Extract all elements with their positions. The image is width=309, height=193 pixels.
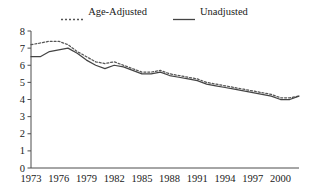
data-series-layer (31, 41, 299, 99)
y-axis-tick-label: 1 (20, 145, 25, 156)
x-axis-tick-label: 1982 (104, 173, 125, 184)
y-axis-tick-label: 0 (20, 163, 25, 174)
y-axis-tick-label: 7 (20, 43, 25, 54)
plot-area: 012345678 197319761979198219851988199119… (0, 0, 309, 193)
y-axis-tick-label: 8 (20, 26, 25, 37)
x-axis-tick-label: 1994 (215, 173, 237, 184)
line-chart: Age-Adjusted Unadjusted 012345678 197319… (0, 0, 309, 193)
x-axis-tick-label: 1988 (159, 173, 180, 184)
x-axis-tick-label: 1979 (76, 173, 97, 184)
y-axis-tick-label: 3 (20, 111, 25, 122)
y-axis: 012345678 (20, 26, 31, 174)
x-axis-tick-label: 1997 (242, 173, 263, 184)
y-axis-tick-label: 4 (20, 94, 26, 105)
y-axis-tick-label: 2 (20, 128, 25, 139)
x-axis-tick-label: 1985 (131, 173, 152, 184)
y-axis-tick-label: 6 (20, 60, 25, 71)
y-axis-tick-label: 5 (20, 77, 25, 88)
x-axis-tick-label: 1976 (48, 173, 69, 184)
x-axis-tick-label: 1973 (21, 173, 42, 184)
x-axis-tick-label: 2000 (270, 173, 291, 184)
x-axis-tick-label: 1991 (187, 173, 208, 184)
x-axis: 1973197619791982198519881991199419972000 (21, 168, 300, 184)
